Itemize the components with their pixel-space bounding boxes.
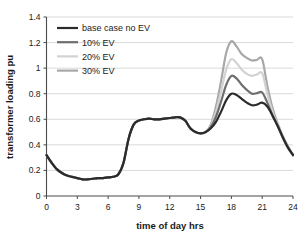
x-tick-label: 9: [137, 202, 142, 212]
legend-label: 30% EV: [82, 66, 115, 76]
x-tick-label: 24: [288, 202, 298, 212]
y-tick-label: 0: [36, 191, 41, 201]
y-tick-label: 0.8: [29, 89, 41, 99]
x-tick-label: 6: [106, 202, 111, 212]
x-axis-label: time of day hrs: [136, 220, 204, 231]
x-tick-label: 0: [44, 202, 49, 212]
x-tick-label: 3: [75, 202, 80, 212]
x-tick-label: 21: [257, 202, 267, 212]
line-chart: 00.20.40.60.811.21.4 03691215182124 base…: [0, 0, 308, 236]
legend-label: base case no EV: [82, 23, 150, 33]
y-tick-label: 0.4: [29, 140, 41, 150]
y-axis-label: transformer loading pu: [4, 55, 15, 159]
x-tick-label: 15: [196, 202, 206, 212]
y-tick-label: 0.6: [29, 114, 41, 124]
y-tick-label: 1: [36, 63, 41, 73]
y-tick-label: 1.2: [29, 38, 41, 48]
x-tick-label: 18: [227, 202, 237, 212]
legend-label: 10% EV: [82, 38, 115, 48]
legend-label: 20% EV: [82, 52, 115, 62]
x-tick-label: 12: [165, 202, 175, 212]
y-tick-label: 1.4: [29, 12, 41, 22]
y-tick-label: 0.2: [29, 165, 41, 175]
chart-figure: 00.20.40.60.811.21.4 03691215182124 base…: [0, 0, 308, 236]
